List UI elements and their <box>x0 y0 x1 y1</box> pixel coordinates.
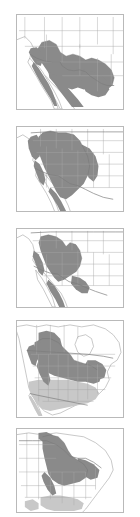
map-panel-4 <box>16 320 124 418</box>
map-2-canvas <box>17 127 123 211</box>
range-map-figure <box>0 0 140 517</box>
map-3-canvas <box>17 229 123 307</box>
map-1-canvas <box>17 15 123 109</box>
map-panel-5 <box>16 428 124 513</box>
map-panel-3 <box>16 228 124 308</box>
map-4-canvas <box>17 321 123 417</box>
map-5-canvas <box>17 429 123 512</box>
map-panel-1 <box>16 14 124 110</box>
map-panel-2 <box>16 126 124 212</box>
